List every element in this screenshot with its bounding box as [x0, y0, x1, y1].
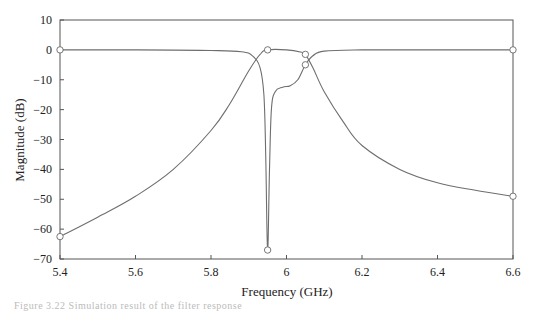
- plot-border: [60, 20, 513, 259]
- curves: [60, 49, 513, 250]
- x-tick-label: 6.6: [506, 265, 521, 279]
- data-marker: [302, 51, 308, 57]
- y-tick-label: −40: [33, 162, 52, 176]
- data-marker: [510, 193, 516, 199]
- data-marker: [302, 62, 308, 68]
- y-tick-label: −60: [33, 222, 52, 236]
- x-tick-label: 5.4: [53, 265, 68, 279]
- markers: [57, 47, 516, 254]
- data-marker: [57, 233, 63, 239]
- y-tick-label: −20: [33, 103, 52, 117]
- data-marker: [264, 47, 270, 53]
- magnitude-frequency-chart: 100−10−20−30−40−50−60−70 5.45.65.866.26.…: [0, 0, 533, 313]
- s21-curve: [60, 49, 513, 236]
- data-marker: [57, 47, 63, 53]
- x-tick-label: 6.4: [430, 265, 445, 279]
- y-tick-label: −30: [33, 133, 52, 147]
- x-tick-label: 5.8: [204, 265, 219, 279]
- y-tick-label: −10: [33, 73, 52, 87]
- plot-frame: [60, 20, 513, 259]
- x-axis-label: Frequency (GHz): [241, 284, 332, 299]
- figure-caption: Figure 3.22 Simulation result of the fil…: [14, 300, 242, 311]
- y-tick-label: 0: [46, 43, 52, 57]
- x-tick-label: 6.2: [355, 265, 370, 279]
- y-axis-label: Magnitude (dB): [12, 98, 27, 181]
- y-tick-label: −70: [33, 252, 52, 266]
- x-tick-label: 5.6: [128, 265, 143, 279]
- x-tick-label: 6: [284, 265, 290, 279]
- y-tick-label: −50: [33, 192, 52, 206]
- y-tick-label: 10: [40, 13, 52, 27]
- data-marker: [264, 247, 270, 253]
- s11-curve: [60, 50, 513, 250]
- data-marker: [510, 47, 516, 53]
